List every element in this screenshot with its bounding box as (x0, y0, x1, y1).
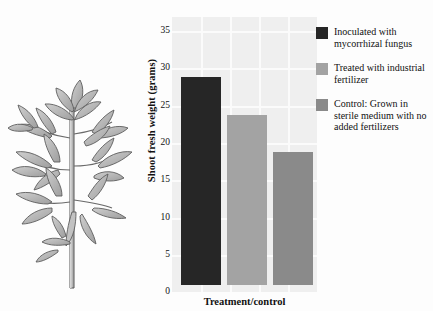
y-tick-label: 0 (146, 287, 170, 297)
bar-control-sterile-medium[interactable] (273, 152, 313, 285)
legend-label: Inoculated with mycorrhizal fungus (334, 26, 431, 49)
y-tick-label: 10 (146, 213, 170, 223)
legend: Inoculated with mycorrhizal fungus Treat… (316, 26, 431, 146)
bar-inoculated-mycorrhizal-fungus[interactable] (181, 77, 221, 285)
legend-label: Control: Grown in sterile medium with no… (334, 98, 431, 133)
plot-area (172, 17, 317, 292)
figure-container: Shoot fresh weight (grams) 0 5 10 15 20 … (0, 0, 433, 311)
y-tick-label: 20 (146, 138, 170, 148)
tomato-plant-illustration (8, 62, 140, 302)
gridline-horizontal (172, 68, 317, 70)
bar-chart: Shoot fresh weight (grams) 0 5 10 15 20 … (128, 10, 318, 305)
legend-entry-control[interactable]: Control: Grown in sterile medium with no… (316, 98, 431, 133)
y-axis-tick-labels: 0 5 10 15 20 25 30 35 (146, 10, 170, 305)
legend-swatch-icon (316, 63, 328, 75)
legend-entry-fertilizer[interactable]: Treated with industrial fertilizer (316, 62, 431, 85)
x-axis-title: Treatment/control (172, 296, 317, 307)
y-tick-label: 15 (146, 175, 170, 185)
y-tick-label: 5 (146, 250, 170, 260)
bar-industrial-fertilizer[interactable] (227, 115, 267, 285)
legend-entry-inoculated[interactable]: Inoculated with mycorrhizal fungus (316, 26, 431, 49)
legend-swatch-icon (316, 27, 328, 39)
y-tick-label: 25 (146, 101, 170, 111)
gridline-horizontal (172, 31, 317, 33)
y-tick-label: 30 (146, 63, 170, 73)
legend-label: Treated with industrial fertilizer (334, 62, 431, 85)
y-tick-label: 35 (146, 26, 170, 36)
legend-swatch-icon (316, 99, 328, 111)
